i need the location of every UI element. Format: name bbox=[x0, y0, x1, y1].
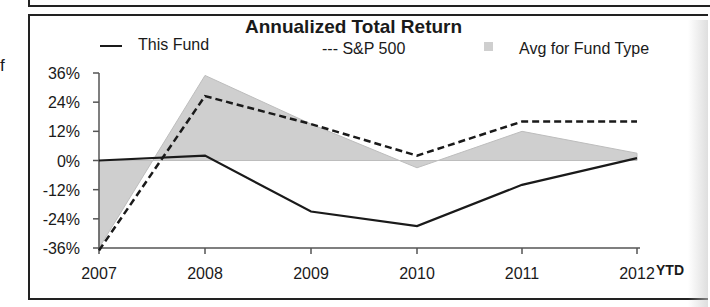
y-tick-label: 12% bbox=[48, 123, 80, 140]
avg-area-polygon bbox=[99, 75, 637, 248]
y-tick-label: -36% bbox=[43, 240, 80, 257]
x-tick-label: 2010 bbox=[399, 265, 435, 282]
x-tick-label: 2009 bbox=[293, 265, 329, 282]
y-tick-label: -12% bbox=[43, 182, 80, 199]
y-tick-label: 36% bbox=[48, 65, 80, 82]
axes bbox=[93, 73, 640, 254]
y-tick-label: 0% bbox=[57, 153, 80, 170]
this-fund-line bbox=[99, 156, 637, 226]
y-tick-label: 24% bbox=[48, 94, 80, 111]
avg-fund-type-area bbox=[99, 75, 637, 248]
x-tick-label: 2008 bbox=[187, 265, 223, 282]
x-tick-label: 2012 bbox=[619, 265, 655, 282]
page-edge-shadow bbox=[688, 20, 708, 307]
x-tick-label: 2007 bbox=[81, 265, 117, 282]
x-tick-label: 2011 bbox=[505, 265, 540, 282]
ytd-label: YTD bbox=[656, 262, 684, 278]
y-tick-label: -24% bbox=[43, 211, 80, 228]
